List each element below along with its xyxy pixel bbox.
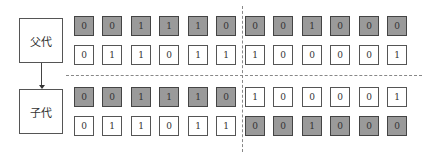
parent-chromosome-2-gene: 1 [102,45,122,65]
parent-chromosome-1-gene: 0 [273,16,293,36]
child-chromosome-1-gene: 1 [387,87,407,107]
child-chromosome-2-gene: 1 [188,116,208,136]
child-chromosome-1-gene: 0 [216,87,236,107]
parent-chromosome-2-gene: 0 [330,45,350,65]
parent-chromosome-2-gene: 0 [273,45,293,65]
child-chromosome-2-gene: 1 [131,116,151,136]
parent-chromosome-2-gene: 1 [216,45,236,65]
parent-chromosome-2-gene: 0 [74,45,94,65]
child-chromosome-2-gene: 1 [102,116,122,136]
parent-chromosome-2-gene: 1 [245,45,265,65]
child-label-box: 子代 [19,89,63,134]
parent-chromosome-2-gene: 0 [302,45,322,65]
generation-connector-line [41,63,42,87]
child-chromosome-2-gene: 0 [159,116,179,136]
child-chromosome-2-gene: 0 [74,116,94,136]
child-chromosome-1-gene: 0 [102,87,122,107]
child-chromosome-1-gene: 0 [273,87,293,107]
child-chromosome-1-gene: 0 [302,87,322,107]
parent-label-box: 父代 [19,18,63,63]
child-chromosome-1-gene: 1 [188,87,208,107]
child-chromosome-1-gene: 1 [131,87,151,107]
parent-chromosome-1-gene: 0 [216,16,236,36]
parent-chromosome-1-gene: 1 [302,16,322,36]
child-chromosome-1-gene: 0 [74,87,94,107]
child-chromosome-2-gene: 0 [273,116,293,136]
child-chromosome-1-gene: 0 [359,87,379,107]
parent-chromosome-1-gene: 0 [74,16,94,36]
parent-chromosome-1-gene: 0 [359,16,379,36]
child-chromosome-2-gene: 0 [245,116,265,136]
generation-divider [66,75,422,76]
crossover-point-line [242,6,243,152]
child-chromosome-2-gene: 1 [302,116,322,136]
parent-chromosome-1-gene: 1 [131,16,151,36]
parent-chromosome-2-gene: 0 [159,45,179,65]
child-chromosome-2-gene: 0 [359,116,379,136]
parent-label: 父代 [30,33,52,49]
child-label: 子代 [30,104,52,120]
parent-chromosome-1-gene: 1 [188,16,208,36]
child-chromosome-1-gene: 0 [330,87,350,107]
parent-chromosome-1-gene: 0 [102,16,122,36]
parent-chromosome-1-gene: 0 [245,16,265,36]
child-chromosome-1-gene: 1 [159,87,179,107]
child-chromosome-2-gene: 1 [216,116,236,136]
parent-chromosome-1-gene: 0 [387,16,407,36]
child-chromosome-2-gene: 0 [330,116,350,136]
parent-chromosome-2-gene: 0 [359,45,379,65]
parent-chromosome-1-gene: 1 [159,16,179,36]
child-chromosome-1-gene: 1 [245,87,265,107]
parent-chromosome-2-gene: 1 [188,45,208,65]
child-chromosome-2-gene: 0 [387,116,407,136]
parent-chromosome-2-gene: 1 [387,45,407,65]
parent-chromosome-1-gene: 0 [330,16,350,36]
parent-chromosome-2-gene: 1 [131,45,151,65]
